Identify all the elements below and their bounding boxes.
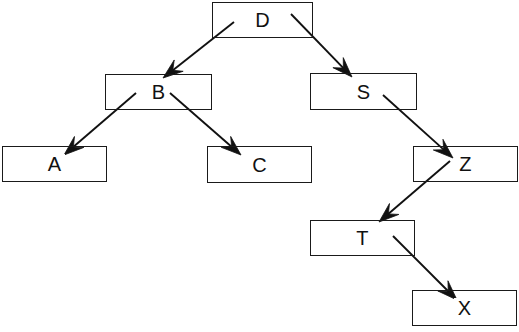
node-label-x: X — [454, 298, 476, 318]
node-label-z: Z — [455, 154, 476, 174]
node-a[interactable]: A — [2, 146, 107, 182]
node-label-t: T — [352, 228, 373, 248]
node-label-b: B — [148, 82, 170, 102]
node-z[interactable]: Z — [413, 146, 518, 182]
node-t[interactable]: T — [310, 220, 415, 256]
node-label-d: D — [251, 10, 274, 30]
tree-diagram: D B S A C Z T X — [0, 0, 519, 332]
node-x[interactable]: X — [412, 290, 517, 326]
node-label-s: S — [353, 82, 375, 102]
node-label-a: A — [44, 154, 66, 174]
node-c[interactable]: C — [207, 146, 312, 183]
node-label-c: C — [248, 155, 271, 175]
node-b[interactable]: B — [105, 74, 212, 110]
node-d[interactable]: D — [212, 2, 313, 38]
node-s[interactable]: S — [310, 73, 417, 110]
